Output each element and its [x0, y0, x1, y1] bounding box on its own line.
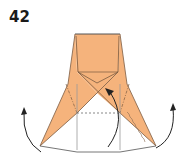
left-rotate-arrow [21, 107, 41, 152]
right-rotate-arrow [156, 103, 176, 148]
origami-diagram [0, 0, 184, 164]
bottom-outline [40, 146, 156, 152]
